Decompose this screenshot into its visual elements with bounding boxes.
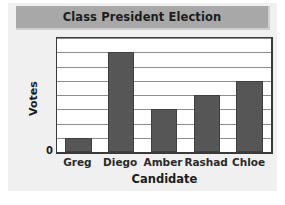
y-axis-title-label: Votes	[27, 81, 40, 116]
x-axis-tick-labels: GregDiegoAmberRashadChloe	[56, 156, 273, 170]
bar-diego	[108, 52, 135, 152]
bar-series	[57, 38, 271, 152]
x-axis-tick-label-greg: Greg	[56, 156, 99, 168]
bar-rashad	[194, 95, 221, 152]
chart-title: Class President Election	[63, 10, 222, 24]
x-axis-tick-label-amber: Amber	[142, 156, 185, 168]
x-axis-tick-label-chloe: Chloe	[227, 156, 270, 168]
x-axis-tick-label-diego: Diego	[99, 156, 142, 168]
bar-amber	[151, 109, 178, 152]
x-axis-title: Candidate	[56, 172, 273, 186]
y-axis-tick-label-zero: 0	[41, 145, 53, 156]
plot-area	[56, 37, 273, 154]
bar-chloe	[236, 81, 263, 152]
chart-title-banner: Class President Election	[16, 6, 270, 30]
bar-greg	[65, 138, 92, 152]
chart-card: Class President Election Votes 0 GregDie…	[8, 3, 277, 191]
y-axis-title: Votes	[22, 63, 44, 133]
x-axis-tick-label-rashad: Rashad	[184, 156, 227, 168]
